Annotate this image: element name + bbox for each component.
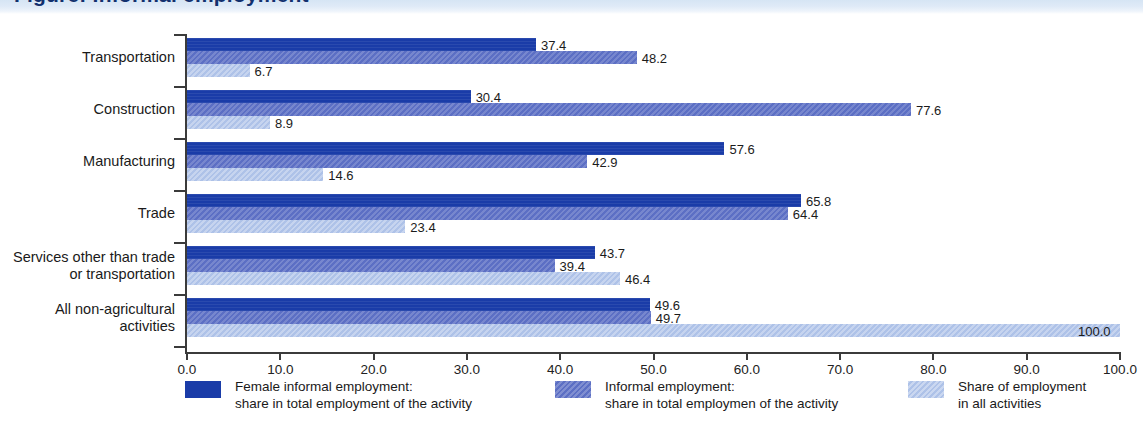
bar-value-label: 57.6 <box>729 141 754 156</box>
legend-swatch-light-blue <box>908 381 944 398</box>
bar-group: Services other than trade or transportat… <box>0 246 1143 285</box>
bar-value-label: 8.9 <box>275 115 293 130</box>
bar-row: 23.4 <box>187 220 1120 233</box>
x-axis-tick-label: 60.0 <box>734 362 760 377</box>
category-label: Manufacturing <box>0 153 175 170</box>
bar-series-0[interactable] <box>187 194 801 207</box>
bar-row: 14.6 <box>187 168 1120 181</box>
bar-value-label: 77.6 <box>916 102 941 117</box>
bar-series-1[interactable] <box>187 311 651 324</box>
bar-value-label: 39.4 <box>560 258 585 273</box>
bar-series-0[interactable] <box>187 142 724 155</box>
x-axis-tick <box>279 352 281 360</box>
x-axis-tick <box>653 352 655 360</box>
bar-row: 42.9 <box>187 155 1120 168</box>
legend-item[interactable]: Share of employment in all activities <box>908 379 1086 412</box>
x-axis-tick-label: 30.0 <box>454 362 480 377</box>
bar-group: Manufacturing57.642.914.6 <box>0 142 1143 181</box>
x-axis-tick-label: 40.0 <box>547 362 573 377</box>
legend-swatch-dark-blue <box>185 381 221 398</box>
x-axis-tick <box>559 352 561 360</box>
legend-item[interactable]: Informal employment: share in total empl… <box>555 379 838 412</box>
x-axis-tick-label: 10.0 <box>267 362 293 377</box>
x-axis-tick <box>839 352 841 360</box>
x-axis-tick <box>186 352 188 360</box>
bar-row: 64.4 <box>187 207 1120 220</box>
bar-row: 30.4 <box>187 90 1120 103</box>
category-label: Construction <box>0 101 175 118</box>
bar-row: 48.2 <box>187 51 1120 64</box>
bar-group: Trade65.864.423.4 <box>0 194 1143 233</box>
bar-value-label: 64.4 <box>793 206 818 221</box>
bar-group: Transportation37.448.26.7 <box>0 38 1143 77</box>
bar-series-0[interactable] <box>187 38 536 51</box>
bar-series-0[interactable] <box>187 90 471 103</box>
bar-group: Construction30.477.68.9 <box>0 90 1143 129</box>
bar-series-2[interactable] <box>187 64 250 77</box>
legend-swatch-medium-blue <box>555 381 591 398</box>
bar-value-label: 6.7 <box>255 63 273 78</box>
category-label: Services other than trade or transportat… <box>0 249 175 283</box>
bar-row: 49.6 <box>187 298 1120 311</box>
bar-value-label: 46.4 <box>625 271 650 286</box>
bar-value-label: 23.4 <box>410 219 435 234</box>
bar-series-1[interactable] <box>187 155 587 168</box>
x-axis-tick <box>1026 352 1028 360</box>
legend-label: Female informal employment: share in tot… <box>235 379 472 412</box>
bar-series-1[interactable] <box>187 103 911 116</box>
title-band: Figure: Informal employment <box>0 0 1143 14</box>
bar-series-0[interactable] <box>187 298 650 311</box>
y-axis-tick <box>174 86 185 88</box>
category-label: All non-agricultural activities <box>0 301 175 335</box>
bar-series-1[interactable] <box>187 259 555 272</box>
bar-series-1[interactable] <box>187 207 788 220</box>
bar-row: 43.7 <box>187 246 1120 259</box>
bar-value-label: 30.4 <box>476 89 501 104</box>
bar-row: 6.7 <box>187 64 1120 77</box>
category-label: Trade <box>0 205 175 222</box>
bar-value-label: 100.0 <box>1078 323 1111 338</box>
x-axis-tick-label: 100.0 <box>1103 362 1137 377</box>
bar-row: 65.8 <box>187 194 1120 207</box>
bar-value-label: 42.9 <box>592 154 617 169</box>
chart-legend: Female informal employment: share in tot… <box>0 379 1143 434</box>
y-axis-tick <box>174 138 185 140</box>
bar-row: 49.7 <box>187 311 1120 324</box>
x-axis-tick <box>373 352 375 360</box>
x-axis-tick-label: 90.0 <box>1014 362 1040 377</box>
bar-series-2[interactable] <box>187 324 1120 337</box>
bar-series-2[interactable] <box>187 168 323 181</box>
bar-value-label: 37.4 <box>541 37 566 52</box>
bar-row: 46.4 <box>187 272 1120 285</box>
bar-row: 57.6 <box>187 142 1120 155</box>
bar-value-label: 48.2 <box>642 50 667 65</box>
bar-series-2[interactable] <box>187 116 270 129</box>
bar-value-label: 49.7 <box>656 310 681 325</box>
x-axis-tick <box>746 352 748 360</box>
bar-value-label: 43.7 <box>600 245 625 260</box>
bar-chart-plot-area: 0.010.020.030.040.050.060.070.080.090.01… <box>0 14 1143 359</box>
x-axis-tick <box>932 352 934 360</box>
page-title: Figure: Informal employment <box>14 0 309 7</box>
legend-item[interactable]: Female informal employment: share in tot… <box>185 379 472 412</box>
x-axis-tick <box>1119 352 1121 360</box>
y-axis-tick <box>174 346 185 348</box>
bar-row: 77.6 <box>187 103 1120 116</box>
bar-series-0[interactable] <box>187 246 595 259</box>
y-axis-tick <box>174 294 185 296</box>
category-label: Transportation <box>0 49 175 66</box>
bar-row: 8.9 <box>187 116 1120 129</box>
y-axis-tick <box>174 242 185 244</box>
x-axis-tick <box>466 352 468 360</box>
bar-group: All non-agricultural activities49.649.71… <box>0 298 1143 337</box>
y-axis-tick <box>174 190 185 192</box>
bar-row: 39.4 <box>187 259 1120 272</box>
x-axis-tick-label: 80.0 <box>920 362 946 377</box>
y-axis-tick <box>174 34 185 36</box>
bar-value-label: 14.6 <box>328 167 353 182</box>
bar-series-2[interactable] <box>187 272 620 285</box>
legend-label: Informal employment: share in total empl… <box>605 379 838 412</box>
x-axis-tick-label: 0.0 <box>178 362 197 377</box>
legend-label: Share of employment in all activities <box>958 379 1086 412</box>
bar-series-2[interactable] <box>187 220 405 233</box>
